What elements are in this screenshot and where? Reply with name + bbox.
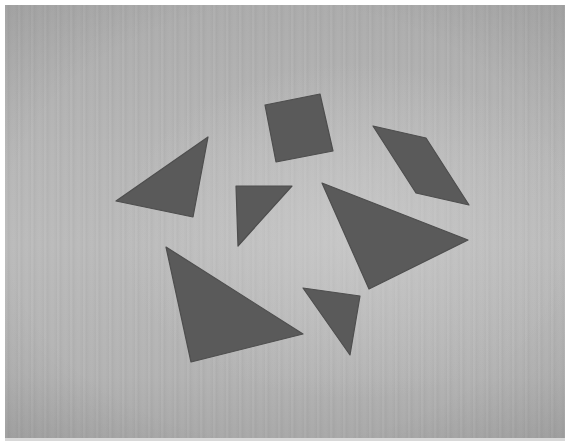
tangram-large-triangle-2 [166, 247, 303, 362]
tangram-square [265, 94, 333, 162]
tangram-parallelogram [373, 126, 469, 205]
tangram-small-triangle-1 [236, 186, 292, 246]
tangram-pieces [0, 0, 569, 446]
tangram-medium-triangle [116, 137, 208, 217]
tangram-small-triangle-2 [303, 288, 360, 355]
